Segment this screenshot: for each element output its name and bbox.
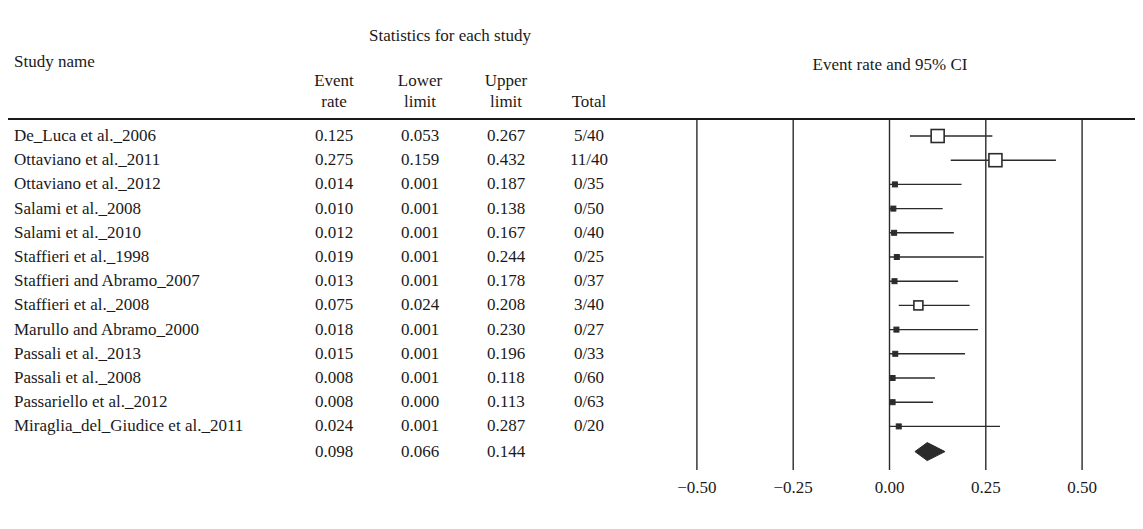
table-cell-event-rate: 0.125 <box>297 126 371 146</box>
table-row-study-name: Passali et al._2013 <box>14 344 141 364</box>
table-cell-total: 0/35 <box>552 174 626 194</box>
table-cell-upper-limit: 0.230 <box>469 320 543 340</box>
column-header-upper-limit: Upper limit <box>469 70 543 112</box>
table-cell-event-rate: 0.018 <box>297 320 371 340</box>
table-cell-event-rate: 0.075 <box>297 295 371 315</box>
statistics-group-title: Statistics for each study <box>300 26 600 46</box>
study-marker <box>914 301 923 310</box>
x-axis-tick-label: 0.00 <box>845 478 935 498</box>
study-marker <box>894 327 899 332</box>
summary-cell-event-rate: 0.098 <box>297 442 371 462</box>
table-cell-upper-limit: 0.167 <box>469 223 543 243</box>
table-row-study-name: Salami et al._2008 <box>14 199 141 219</box>
table-cell-lower-limit: 0.159 <box>383 150 457 170</box>
table-cell-event-rate: 0.008 <box>297 368 371 388</box>
table-row-study-name: De_Luca et al._2006 <box>14 126 156 146</box>
study-marker <box>892 182 897 187</box>
table-cell-event-rate: 0.015 <box>297 344 371 364</box>
table-cell-upper-limit: 0.178 <box>469 271 543 291</box>
column-header-lower-limit-line2: limit <box>383 91 457 112</box>
study-marker <box>891 206 896 211</box>
forest-plot-figure: Statistics for each study Event rate and… <box>0 0 1143 529</box>
table-row-study-name: Salami et al._2010 <box>14 223 141 243</box>
study-marker <box>893 351 898 356</box>
table-cell-lower-limit: 0.001 <box>383 247 457 267</box>
summary-cell-upper-limit: 0.144 <box>469 442 543 462</box>
table-cell-lower-limit: 0.001 <box>383 368 457 388</box>
column-header-event-rate: Event rate <box>297 70 371 112</box>
table-row-study-name: Passariello et al._2012 <box>14 392 167 412</box>
table-cell-total: 0/25 <box>552 247 626 267</box>
summary-cell-lower-limit: 0.066 <box>383 442 457 462</box>
table-cell-lower-limit: 0.001 <box>383 223 457 243</box>
study-marker <box>931 130 944 143</box>
column-header-total: Total <box>552 91 626 112</box>
study-marker <box>892 230 897 235</box>
column-header-study-name: Study name <box>14 52 95 72</box>
x-axis-tick-label: 0.25 <box>941 478 1031 498</box>
table-cell-total: 0/50 <box>552 199 626 219</box>
table-cell-upper-limit: 0.287 <box>469 416 543 436</box>
table-cell-upper-limit: 0.196 <box>469 344 543 364</box>
table-cell-upper-limit: 0.187 <box>469 174 543 194</box>
table-row-study-name: Staffieri and Abramo_2007 <box>14 271 200 291</box>
column-header-lower-limit-line1: Lower <box>383 70 457 91</box>
table-cell-lower-limit: 0.001 <box>383 320 457 340</box>
table-row-study-name: Marullo and Abramo_2000 <box>14 320 199 340</box>
x-axis-tick-label: 0.50 <box>1037 478 1127 498</box>
table-row-study-name: Ottaviano et al._2011 <box>14 150 160 170</box>
table-cell-event-rate: 0.019 <box>297 247 371 267</box>
table-cell-lower-limit: 0.000 <box>383 392 457 412</box>
table-cell-lower-limit: 0.001 <box>383 271 457 291</box>
table-cell-total: 0/60 <box>552 368 626 388</box>
table-cell-total: 11/40 <box>552 150 626 170</box>
table-row-study-name: Miraglia_del_Giudice et al._2011 <box>14 416 243 436</box>
column-header-lower-limit: Lower limit <box>383 70 457 112</box>
table-cell-upper-limit: 0.432 <box>469 150 543 170</box>
table-row-study-name: Passali et al._2008 <box>14 368 141 388</box>
table-cell-event-rate: 0.014 <box>297 174 371 194</box>
summary-diamond <box>915 443 945 461</box>
column-header-upper-limit-line1: Upper <box>469 70 543 91</box>
plot-title: Event rate and 95% CI <box>690 55 1090 75</box>
x-axis-tick-label: −0.50 <box>652 478 742 498</box>
table-cell-event-rate: 0.024 <box>297 416 371 436</box>
study-marker <box>892 279 897 284</box>
table-cell-lower-limit: 0.001 <box>383 174 457 194</box>
table-cell-total: 0/37 <box>552 271 626 291</box>
table-cell-event-rate: 0.013 <box>297 271 371 291</box>
table-cell-total: 0/20 <box>552 416 626 436</box>
table-cell-total: 0/63 <box>552 392 626 412</box>
table-cell-upper-limit: 0.244 <box>469 247 543 267</box>
table-cell-upper-limit: 0.208 <box>469 295 543 315</box>
study-marker <box>890 376 895 381</box>
table-cell-upper-limit: 0.118 <box>469 368 543 388</box>
table-cell-total: 0/40 <box>552 223 626 243</box>
table-row-study-name: Staffieri et al._1998 <box>14 247 149 267</box>
table-row-study-name: Ottaviano et al._2012 <box>14 174 161 194</box>
header-divider <box>8 118 1135 120</box>
table-cell-event-rate: 0.275 <box>297 150 371 170</box>
study-marker <box>896 424 901 429</box>
table-cell-event-rate: 0.008 <box>297 392 371 412</box>
table-cell-event-rate: 0.012 <box>297 223 371 243</box>
column-header-event-rate-line1: Event <box>297 70 371 91</box>
table-cell-total: 0/33 <box>552 344 626 364</box>
table-row-study-name: Staffieri et al._2008 <box>14 295 149 315</box>
x-axis-tick-label: −0.25 <box>748 478 838 498</box>
table-cell-lower-limit: 0.053 <box>383 126 457 146</box>
table-cell-lower-limit: 0.001 <box>383 199 457 219</box>
table-cell-total: 3/40 <box>552 295 626 315</box>
column-header-event-rate-line2: rate <box>297 91 371 112</box>
table-cell-upper-limit: 0.138 <box>469 199 543 219</box>
table-cell-lower-limit: 0.001 <box>383 344 457 364</box>
table-cell-total: 5/40 <box>552 126 626 146</box>
study-marker <box>989 154 1002 167</box>
table-cell-total: 0/27 <box>552 320 626 340</box>
column-header-upper-limit-line2: limit <box>469 91 543 112</box>
table-cell-upper-limit: 0.113 <box>469 392 543 412</box>
table-cell-lower-limit: 0.024 <box>383 295 457 315</box>
table-cell-lower-limit: 0.001 <box>383 416 457 436</box>
table-cell-event-rate: 0.010 <box>297 199 371 219</box>
study-marker <box>894 255 899 260</box>
